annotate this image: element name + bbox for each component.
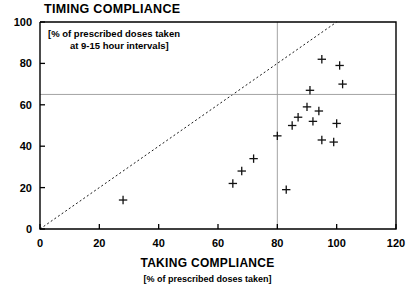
data-point [315, 107, 323, 115]
y-tick-label: 80 [2, 57, 32, 69]
y-tick-label: 100 [2, 16, 32, 28]
x-tick-label: 40 [153, 237, 165, 249]
data-point [332, 119, 340, 127]
data-point [338, 80, 346, 88]
data-point [303, 103, 311, 111]
data-point [282, 185, 290, 193]
x-tick-label: 100 [327, 237, 345, 249]
data-point [238, 167, 246, 175]
data-point [229, 179, 237, 187]
data-point [335, 61, 343, 69]
scatter-chart-figure: TIMING COMPLIANCE [% of prescribed doses… [0, 0, 415, 293]
x-tick-label: 120 [387, 237, 405, 249]
chart-title: TIMING COMPLIANCE [44, 2, 180, 16]
y-tick-label: 0 [2, 223, 32, 235]
x-axis-title: TAKING COMPLIANCE [0, 256, 415, 270]
data-point [306, 86, 314, 94]
x-tick-label: 20 [93, 237, 105, 249]
y-tick-label: 60 [2, 99, 32, 111]
y-tick-label: 20 [2, 182, 32, 194]
plot-frame [40, 22, 396, 229]
data-point [294, 113, 302, 121]
x-tick-label: 0 [37, 237, 43, 249]
annotation-line-2: at 9-15 hour intervals] [48, 40, 180, 52]
data-point [309, 117, 317, 125]
chart-annotation: [% of prescribed doses taken at 9-15 hou… [48, 28, 180, 52]
x-tick-label: 80 [271, 237, 283, 249]
x-tick-label: 60 [212, 237, 224, 249]
data-point [119, 196, 127, 204]
data-point [273, 132, 281, 140]
data-point [330, 138, 338, 146]
y-tick-label: 40 [2, 140, 32, 152]
data-point [318, 55, 326, 63]
data-point [249, 154, 257, 162]
data-point [318, 136, 326, 144]
x-axis-subtitle: [% of prescribed doses taken] [0, 274, 415, 284]
annotation-line-1: [% of prescribed doses taken [48, 28, 180, 39]
data-point [288, 121, 296, 129]
